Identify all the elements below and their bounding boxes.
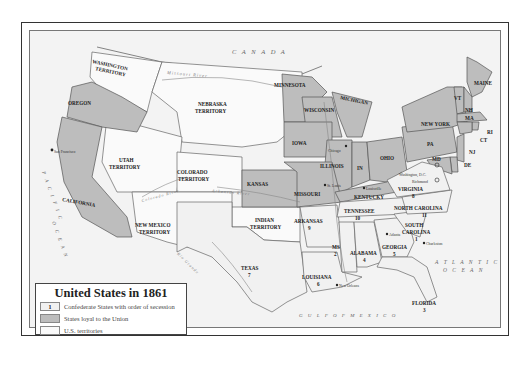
label-pennsylvania: PA — [427, 141, 434, 147]
label-charleston: Charleston — [426, 242, 443, 246]
label-north-carolina: NORTH CAROLINA — [394, 205, 443, 211]
label-texas-order: 7 — [248, 272, 251, 278]
label-virginia-order: 8 — [412, 193, 415, 199]
kansas — [242, 170, 300, 207]
legend-label-territory: U.S. territories — [64, 327, 102, 334]
label-rhode-island: RI — [487, 129, 493, 135]
label-new-orleans: New Orleans — [339, 284, 359, 288]
legend-label-union: States loyal to the Union — [64, 315, 128, 322]
label-missouri: MISSOURI — [294, 191, 320, 197]
label-nebraska-territory-2: TERRITORY — [195, 108, 226, 114]
label-louisiana: LOUISIANA — [302, 274, 332, 280]
legend-item-union: States loyal to the Union — [40, 313, 182, 324]
label-connecticut: CT — [480, 137, 488, 143]
label-utah-territory-2: TERRITORY — [109, 164, 140, 170]
label-colorado-territory-2: TERRITORY — [178, 176, 209, 182]
connecticut — [457, 122, 472, 134]
label-texas: TEXAS — [241, 265, 258, 271]
label-south-carolina-2: CAROLINA — [402, 229, 430, 235]
label-arkansas: ARKANSAS — [294, 218, 323, 224]
label-georgia-order: 5 — [393, 251, 396, 257]
city-dot-charleston — [423, 242, 425, 244]
label-st-louis: St. Louis — [327, 184, 341, 188]
label-iowa: IOWA — [292, 140, 307, 146]
label-atlantic-ocean: O C E A N — [443, 267, 484, 273]
city-dot-louisville — [363, 187, 365, 189]
label-gulf-of-mexico: G U L F O F M E X I C O — [299, 313, 397, 318]
label-mexico: M E X I C O — [229, 326, 285, 328]
legend-item-territory: U.S. territories — [40, 325, 182, 336]
label-massachusetts: MA — [465, 115, 474, 121]
rhode-island — [472, 122, 479, 130]
label-maryland: MD — [432, 156, 441, 162]
label-florida-order: 3 — [423, 307, 426, 313]
label-florida: FLORIDA — [412, 300, 436, 306]
label-new-jersey: NJ — [469, 149, 476, 155]
label-tennessee: TENNESSEE — [344, 208, 375, 214]
label-new-mexico-territory-2: TERRITORY — [139, 229, 170, 235]
arkansas — [300, 205, 342, 247]
label-louisville: Louisville — [366, 187, 382, 191]
city-dot-san-francisco — [51, 149, 54, 152]
label-south-carolina-order: 1 — [415, 236, 418, 242]
city-dot-atlanta — [386, 233, 388, 235]
label-virginia: VIRGINIA — [398, 186, 423, 192]
label-nebraska-territory: NEBRASKA — [198, 101, 227, 107]
label-alabama-order: 4 — [363, 257, 366, 263]
label-ohio: OHIO — [380, 155, 394, 161]
label-mississippi-order: 2 — [334, 251, 337, 257]
label-new-york: NEW YORK — [421, 121, 450, 127]
legend-label-confederate: Confederate States with order of secessi… — [64, 303, 175, 310]
label-new-mexico-territory: NEW MEXICO — [135, 222, 171, 228]
label-atlanta: Atlanta — [389, 233, 400, 237]
label-delaware: DE — [464, 162, 472, 168]
label-chicago: Chicago — [328, 149, 341, 153]
label-minnesota: MINNESOTA — [274, 82, 306, 88]
city-dot-st-louis — [324, 184, 326, 186]
label-san-francisco: San Francisco — [54, 150, 76, 154]
label-north-carolina-order: 11 — [422, 212, 427, 218]
legend-swatch-union — [40, 314, 60, 323]
label-louisiana-order: 6 — [317, 281, 320, 287]
label-indiana: IN — [357, 165, 363, 171]
map-legend: United States in 1861 1 Confederate Stat… — [35, 283, 187, 335]
label-arkansas-order: 9 — [308, 225, 311, 231]
label-maine: MAINE — [474, 80, 492, 86]
label-georgia: GEORGIA — [382, 244, 407, 250]
city-dot-new-orleans — [336, 284, 338, 286]
legend-swatch-territory — [40, 326, 60, 335]
label-atlantic: A T L A N T I C — [434, 259, 499, 265]
map-title: United States in 1861 — [40, 286, 182, 300]
label-vermont: VT — [454, 95, 462, 101]
new-jersey — [457, 134, 464, 162]
label-indian-territory: INDIAN — [255, 217, 274, 223]
label-wisconsin: WISCONSIN — [304, 107, 335, 113]
label-alabama: ALABAMA — [350, 250, 377, 256]
city-dot-chicago — [345, 145, 347, 147]
label-illinois: ILLINOIS — [320, 163, 344, 169]
legend-item-confederate: 1 Confederate States with order of seces… — [40, 301, 182, 312]
label-oregon: OREGON — [68, 100, 91, 106]
label-indian-territory-2: TERRITORY — [250, 224, 281, 230]
label-canada: C A N A D A — [232, 48, 287, 55]
label-utah-territory: UTAH — [119, 157, 134, 163]
label-kentucky: KENTUCKY — [354, 194, 384, 200]
label-mississippi: MS — [332, 244, 340, 250]
label-kansas: KANSAS — [247, 181, 268, 187]
label-new-hampshire: NH — [465, 107, 473, 113]
label-tennessee-order: 10 — [355, 215, 361, 221]
label-colorado-territory: COLORADO — [177, 169, 208, 175]
legend-swatch-confederate: 1 — [40, 302, 60, 311]
label-richmond: Richmond — [412, 180, 428, 184]
label-south-carolina: SOUTH — [405, 222, 423, 228]
